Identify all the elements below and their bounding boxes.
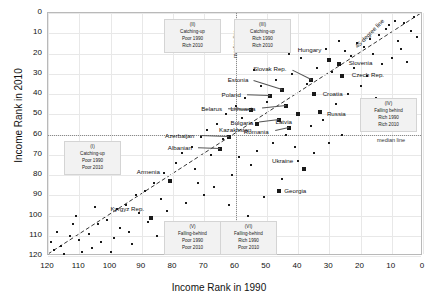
- data-point: [397, 40, 399, 42]
- gridline-horizontal: [48, 256, 421, 257]
- quadrant-line1: Poor 1990: [68, 158, 117, 165]
- data-point: [175, 162, 177, 164]
- data-point: [263, 196, 265, 198]
- gridline-vertical: [111, 13, 112, 254]
- data-point: [113, 237, 115, 239]
- x-tick-label: 30: [316, 261, 340, 270]
- data-point-labeled: [327, 58, 331, 62]
- data-point-label: Poland: [222, 92, 241, 98]
- data-point: [347, 93, 349, 95]
- quadrant-line2: Poor 2010: [168, 245, 217, 252]
- data-point: [131, 243, 133, 245]
- data-point: [406, 61, 408, 63]
- x-tick-label: 100: [98, 261, 122, 270]
- quadrant-line1: Poor 1990: [168, 36, 217, 43]
- y-tick-label: 10: [20, 28, 42, 36]
- data-point: [163, 172, 165, 174]
- data-point-labeled: [312, 92, 316, 96]
- data-point: [350, 55, 352, 57]
- y-tick-label: 90: [20, 190, 42, 198]
- x-axis-label: Income Rank in 1990: [0, 282, 438, 293]
- y-tick-label: 100: [20, 211, 42, 219]
- quadrant-box-i: (I)Catching-upPoor 1990Poor 2010: [64, 141, 121, 175]
- data-point-label: Russia: [327, 111, 346, 117]
- quadrant-title: Catching-up: [238, 29, 287, 36]
- y-tick-label: 70: [20, 150, 42, 158]
- data-point: [306, 83, 308, 85]
- data-point: [256, 150, 258, 152]
- data-point-labeled: [149, 216, 153, 220]
- data-point: [325, 48, 327, 50]
- data-point-label: Belarus: [201, 106, 222, 112]
- data-point: [210, 154, 212, 156]
- y-tick-label: 120: [20, 251, 42, 259]
- data-point: [222, 138, 224, 140]
- data-point: [135, 194, 137, 196]
- data-point: [291, 73, 293, 75]
- data-point: [247, 215, 249, 217]
- data-point: [72, 223, 74, 225]
- data-point: [75, 215, 77, 217]
- gridline-vertical: [79, 13, 80, 254]
- data-point: [331, 71, 333, 73]
- quadrant-line1: Rich 1990: [224, 238, 273, 245]
- data-point: [360, 85, 362, 87]
- data-point: [206, 129, 208, 131]
- median-line-horizontal: [48, 135, 421, 136]
- data-point: [225, 113, 227, 115]
- gridline-horizontal: [48, 13, 421, 14]
- x-tick-label: 0: [410, 261, 434, 270]
- quadrant-line2: Rich 2010: [364, 122, 413, 129]
- data-point-label: Hungary: [298, 47, 321, 53]
- y-tick-label: 0: [20, 8, 42, 16]
- data-point: [216, 123, 218, 125]
- data-point: [81, 251, 83, 253]
- quadrant-line2: Poor 2010: [68, 165, 117, 172]
- quadrant-line2: Rich 2010: [238, 43, 287, 50]
- data-point: [356, 42, 358, 44]
- quadrant-box-vi: (VI)Falling-behindRich 1990Poor 2010: [220, 221, 277, 255]
- data-point: [413, 16, 415, 18]
- data-point-label: Slovak Rep.: [253, 66, 286, 72]
- chart-root: median linemedian line45-degree lineSlov…: [0, 0, 438, 305]
- data-point: [372, 53, 374, 55]
- quadrant-roman: (III): [238, 22, 287, 29]
- gridline-vertical: [423, 13, 424, 254]
- quadrant-title: Falling-behind: [168, 231, 217, 238]
- y-tick-label: 80: [20, 170, 42, 178]
- data-point: [381, 63, 383, 65]
- y-tick-label: 20: [20, 49, 42, 57]
- data-point: [391, 57, 393, 59]
- data-point: [294, 146, 296, 148]
- data-point: [328, 142, 330, 144]
- data-point: [285, 134, 287, 136]
- data-point: [388, 24, 390, 26]
- x-tick-label: 20: [348, 261, 372, 270]
- gridline-horizontal: [48, 195, 421, 196]
- quadrant-line1: Poor 1990: [168, 238, 217, 245]
- data-point: [297, 160, 299, 162]
- data-point: [338, 40, 340, 42]
- data-point: [50, 241, 52, 243]
- data-point: [266, 101, 268, 103]
- x-tick-label: 110: [66, 261, 90, 270]
- data-point: [250, 164, 252, 166]
- y-tick-label: 40: [20, 89, 42, 97]
- data-point: [228, 204, 230, 206]
- data-point-labeled: [296, 112, 300, 116]
- data-point-labeled: [302, 167, 306, 171]
- y-tick-label: 30: [20, 69, 42, 77]
- quadrant-box-iv: (IV)Falling behindRich 1990Rich 2010: [360, 98, 417, 132]
- data-point: [288, 53, 290, 55]
- y-tick-label: 50: [20, 109, 42, 117]
- data-point: [316, 67, 318, 69]
- quadrant-roman: (II): [168, 22, 217, 29]
- label-leader-line: [200, 135, 229, 137]
- data-point-label: Azerbaijan: [165, 133, 194, 139]
- data-point: [322, 119, 324, 121]
- x-tick-label: 80: [160, 261, 184, 270]
- quadrant-roman: (V): [168, 224, 217, 231]
- quadrant-title: Catching-up: [68, 151, 117, 158]
- data-point: [166, 210, 168, 212]
- quadrant-line1: Rich 1990: [364, 115, 413, 122]
